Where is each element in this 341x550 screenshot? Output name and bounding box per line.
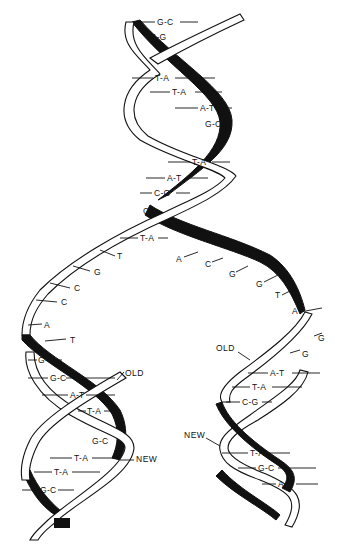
- right-old-callout-line: [238, 352, 250, 360]
- svg-text:C: C: [61, 297, 67, 307]
- svg-text:T-A: T-A: [252, 382, 266, 392]
- left-new-label: NEW: [136, 454, 157, 464]
- svg-text:T-A: T-A: [155, 73, 169, 83]
- svg-text:C-G: C-G: [150, 32, 166, 42]
- left-daughter-helix: G-C G-C A-T T-A G-C T-A T-A G-C OLD NEW: [21, 335, 157, 540]
- svg-text:G-C: G-C: [50, 373, 66, 383]
- svg-text:A-T: A-T: [270, 368, 285, 378]
- svg-text:G: G: [318, 333, 325, 343]
- right-new-callout-line: [206, 438, 220, 446]
- svg-text:G: G: [256, 279, 263, 289]
- svg-text:A-T: A-T: [167, 173, 182, 183]
- svg-text:T-A: T-A: [74, 453, 88, 463]
- svg-text:T-A: T-A: [192, 157, 206, 167]
- svg-text:A: A: [44, 320, 50, 330]
- svg-text:G-C: G-C: [38, 355, 54, 365]
- svg-text:A-T: A-T: [200, 103, 215, 113]
- svg-text:T-A: T-A: [172, 87, 186, 97]
- right-new-label: NEW: [184, 430, 205, 440]
- svg-text:A-T: A-T: [278, 479, 293, 489]
- right-old-label: OLD: [216, 343, 235, 353]
- right-daughter-helix: A-T T-A C-G T-A G-C A-T OLD NEW: [184, 312, 320, 527]
- svg-text:T-A: T-A: [140, 233, 154, 243]
- svg-text:T-A: T-A: [54, 467, 68, 477]
- svg-text:A: A: [176, 254, 182, 264]
- svg-text:G: G: [94, 267, 101, 277]
- svg-text:G-C: G-C: [258, 463, 274, 473]
- svg-text:T-A: T-A: [250, 448, 264, 458]
- svg-text:T-A: T-A: [87, 406, 101, 416]
- svg-text:T: T: [117, 251, 123, 261]
- parent-light-strand: [22, 22, 236, 335]
- svg-text:G-C: G-C: [205, 119, 221, 129]
- svg-text:T: T: [70, 335, 76, 345]
- svg-text:C: C: [143, 206, 149, 216]
- dna-replication-diagram: G-C C-G T-A T-A A-T G-C T-A A-T C-G C T-…: [0, 0, 341, 550]
- parent-dark-strand-lower: [145, 205, 305, 314]
- left-strand-end: [54, 518, 70, 528]
- svg-text:C-G: C-G: [242, 397, 258, 407]
- svg-text:A-T: A-T: [70, 390, 85, 400]
- svg-text:C: C: [74, 283, 80, 293]
- svg-text:G-C: G-C: [92, 436, 108, 446]
- svg-text:G-C: G-C: [40, 485, 56, 495]
- left-old-label: OLD: [125, 368, 144, 378]
- svg-text:C-G: C-G: [154, 188, 170, 198]
- svg-text:A: A: [292, 306, 298, 316]
- svg-text:T: T: [275, 290, 281, 300]
- svg-text:G-C: G-C: [157, 17, 173, 27]
- svg-text:G: G: [302, 349, 309, 359]
- svg-text:C: C: [205, 259, 211, 269]
- svg-text:G: G: [229, 269, 236, 279]
